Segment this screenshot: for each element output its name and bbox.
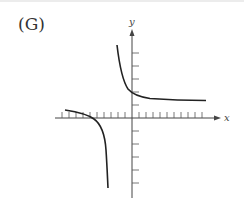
- curve-right-branch: [117, 45, 206, 101]
- x-axis-arrow-icon: [214, 116, 221, 121]
- curve-left-branch: [65, 110, 108, 188]
- y-axis-arrow-icon: [130, 29, 135, 36]
- x-axis-label: x: [224, 112, 230, 123]
- graph: x y: [0, 0, 244, 210]
- y-axis-label: y: [128, 16, 135, 27]
